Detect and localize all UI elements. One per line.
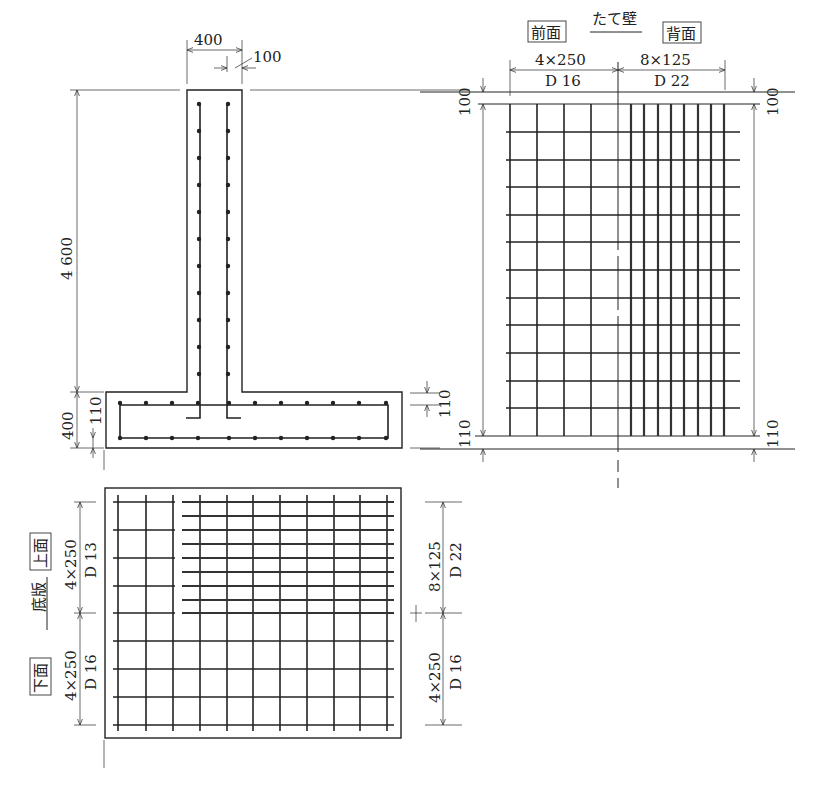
- slab-cover-left-label: 110: [87, 396, 105, 425]
- wall-title: たて壁: [592, 10, 637, 28]
- slab-top-spacing: 4×250: [62, 539, 80, 590]
- wall-front-bar: D 16: [545, 72, 581, 90]
- cover-label: 100: [253, 48, 282, 66]
- slab-right-bottom-bar: D 16: [447, 654, 465, 690]
- wall-back-bar: D 22: [654, 72, 690, 90]
- wall-height-label: 4 600: [58, 237, 76, 280]
- wall-width-label: 400: [194, 31, 223, 49]
- slab-right-top-spacing: 8×125: [426, 541, 444, 592]
- wall-elevation: 前面 たて壁 背面 4×250 D 16 8×125 D 22: [420, 10, 795, 488]
- wall-bottom-cover-left: 110: [456, 419, 474, 448]
- wall-back-spacing: 8×125: [640, 51, 691, 69]
- rebar-drawing: 400 100 4 600 400 110 110 前: [0, 0, 821, 785]
- slab-right-top-bar: D 22: [447, 542, 465, 578]
- wall-front-spacing: 4×250: [535, 51, 586, 69]
- slab-right-bottom-spacing: 4×250: [426, 652, 444, 703]
- cross-section: 400 100 4 600 400 110 110: [58, 31, 470, 470]
- slab-top-label: 上面: [32, 538, 50, 568]
- slab-top-bar: D 13: [82, 542, 100, 578]
- slab-plan: 上面 底版 下面 4×250 D 13 4×250 D 16 8×125 D 2…: [30, 488, 465, 768]
- wall-top-cover-left: 100: [456, 87, 474, 116]
- slab-bottom-bar: D 16: [82, 654, 100, 690]
- slab-bottom-label: 下面: [32, 663, 50, 693]
- slab-bottom-spacing: 4×250: [62, 650, 80, 701]
- slab-cover-right-label: 110: [436, 389, 454, 418]
- slab-thickness-label: 400: [59, 411, 77, 440]
- wall-back-label: 背面: [666, 25, 696, 43]
- wall-front-label: 前面: [531, 24, 561, 42]
- slab-title: 底版: [30, 582, 48, 612]
- wall-top-cover-right: 100: [764, 87, 782, 116]
- wall-bottom-cover-right: 110: [764, 419, 782, 448]
